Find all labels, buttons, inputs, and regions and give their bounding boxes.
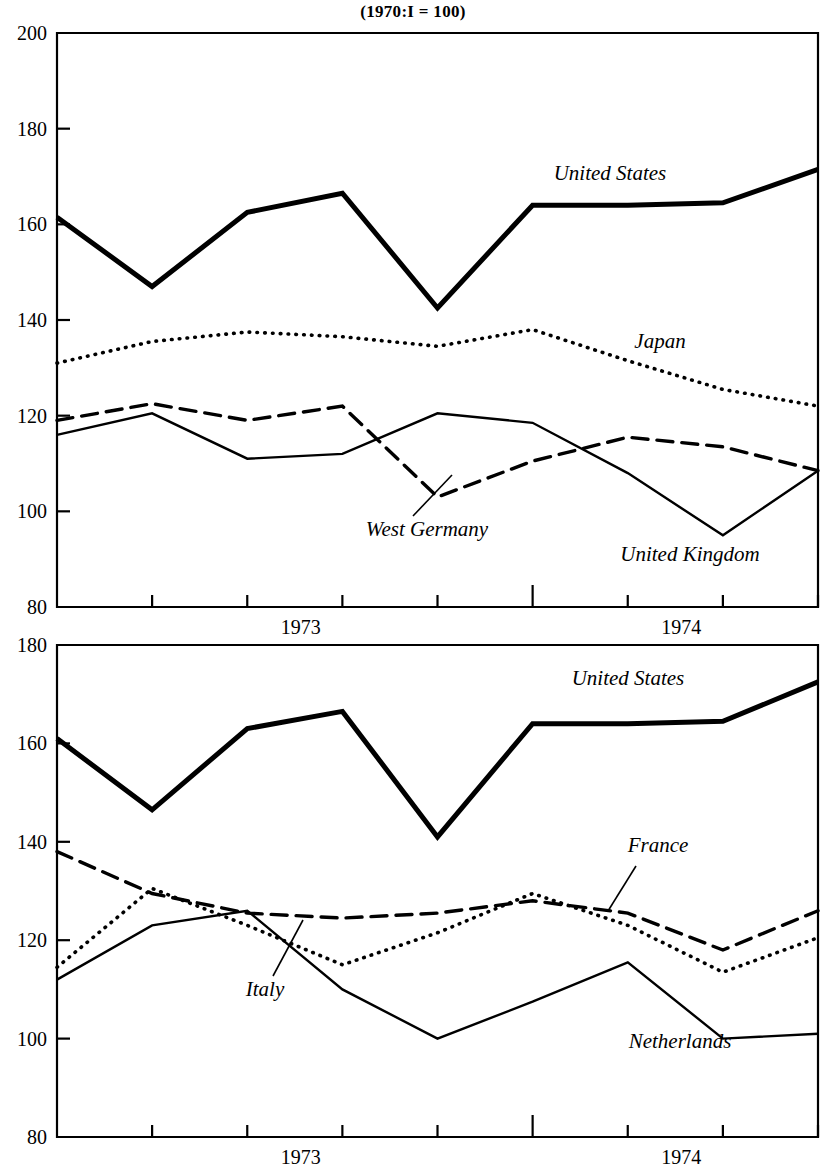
y-tick-label: 100: [17, 1028, 47, 1050]
series-label-west-germany: West Germany: [366, 517, 489, 541]
series-line-netherlands: [57, 911, 818, 1039]
series-label-france: France: [627, 833, 689, 857]
top-panel: 8010012014016018020019731974United State…: [0, 0, 826, 636]
series-label-united-kingdom: United Kingdom: [620, 542, 759, 566]
series-line-united-states: [57, 169, 818, 308]
y-tick-label: 120: [17, 929, 47, 951]
series-line-italy: [57, 889, 818, 973]
y-tick-label: 200: [17, 22, 47, 44]
y-tick-label: 160: [17, 213, 47, 235]
y-tick-label: 140: [17, 831, 47, 853]
leader-line: [608, 866, 636, 911]
y-tick-label: 180: [17, 118, 47, 140]
y-tick-label: 120: [17, 405, 47, 427]
y-tick-label: 80: [27, 596, 47, 618]
series-line-france: [57, 852, 818, 950]
figure-root: (1970:I = 100) 8010012014016018020019731…: [0, 0, 826, 1174]
y-tick-label: 80: [27, 1126, 47, 1148]
series-line-united-states: [57, 682, 818, 837]
top-panel-svg: 8010012014016018020019731974United State…: [0, 0, 826, 636]
x-tick-label: 1974: [661, 1146, 701, 1168]
y-tick-label: 100: [17, 500, 47, 522]
series-line-japan: [57, 330, 818, 407]
x-tick-label: 1973: [281, 1146, 321, 1168]
series-label-netherlands: Netherlands: [628, 1029, 732, 1053]
y-tick-label: 140: [17, 309, 47, 331]
series-line-west-germany: [57, 404, 818, 497]
y-tick-label: 160: [17, 732, 47, 754]
series-label-italy: Italy: [245, 977, 285, 1001]
bottom-panel-svg: 8010012014016018019731974United StatesFr…: [0, 628, 826, 1174]
series-label-japan: Japan: [634, 329, 685, 353]
series-label-united-states: United States: [554, 161, 667, 185]
plot-frame: [57, 645, 818, 1137]
y-tick-label: 180: [17, 634, 47, 656]
series-label-united-states: United States: [572, 666, 685, 690]
bottom-panel: 8010012014016018019731974United StatesFr…: [0, 628, 826, 1174]
